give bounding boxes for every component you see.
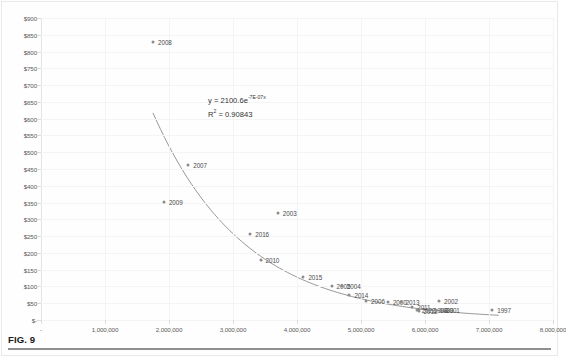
data-point[interactable] [330,284,333,287]
x-axis-tick-label: 7,000,000 [476,326,503,333]
y-axis-tick-label: $800 [24,48,37,55]
data-point[interactable] [399,301,402,304]
x-axis-tick-label: 3,000,000 [220,326,247,333]
x-axis-tick-label: 8,000,000 [540,326,566,333]
y-axis-tick-label: $150 [24,266,37,273]
data-point[interactable] [433,308,436,311]
y-axis-tick-mark [37,186,41,187]
y-axis-tick-mark [37,152,41,153]
y-axis-tick-mark [37,236,41,237]
figure-caption: FIG. 9 [8,334,35,345]
data-point[interactable] [348,293,351,296]
plot-area: 2008200720092003201620102015200520042014… [41,18,553,320]
y-axis-tick-mark [37,35,41,36]
r-squared-value: = 0.90843 [216,109,252,118]
y-axis-tick-label: $250 [24,233,37,240]
data-point-label: 2002 [444,297,458,304]
x-axis-tick-mark [41,320,42,324]
data-point-label: 2008 [158,39,172,46]
data-point-label: 2014 [354,291,368,298]
x-axis-tick-mark [233,320,234,324]
r-squared-line: R2 = 0.90843 [208,106,266,120]
x-axis-tick-label: - [40,326,42,333]
data-point-label: 2010 [266,257,280,264]
y-axis-tick-mark [37,135,41,136]
y-axis-tick-mark [37,85,41,86]
data-point[interactable] [491,308,494,311]
equation-base: y = 2100.6e [208,96,248,105]
y-axis-tick-mark [37,270,41,271]
data-point-label: 2015 [308,274,322,281]
y-axis-tick-label: $600 [24,115,37,122]
data-point[interactable] [187,163,190,166]
y-axis-tick-label: $400 [24,182,37,189]
y-axis-tick-mark [37,102,41,103]
y-axis-tick-label: $500 [24,149,37,156]
data-point[interactable] [340,285,343,288]
gridline-vertical [361,18,362,320]
x-axis-tick-mark [361,320,362,324]
data-point-label: 2006 [371,297,385,304]
y-axis-tick-label: $900 [24,15,37,22]
gridline-vertical [425,18,426,320]
data-point[interactable] [417,310,420,313]
data-point-label: 2001 [446,306,460,313]
data-point[interactable] [440,308,443,311]
x-axis-tick-label: 2,000,000 [156,326,183,333]
y-axis-tick-label: $850 [24,31,37,38]
gridline-vertical [489,18,490,320]
data-point[interactable] [302,276,305,279]
data-point[interactable] [411,306,414,309]
equation-exponent: -7E-07x [248,94,266,100]
y-axis-tick-mark [37,119,41,120]
data-point[interactable] [276,211,279,214]
y-axis-tick-label: $750 [24,65,37,72]
data-point-label: 1997 [497,306,511,313]
data-point-label: 2004 [347,283,361,290]
data-point-label: 2016 [255,231,269,238]
y-axis-tick-label: $650 [24,98,37,105]
y-axis-tick-label: $300 [24,216,37,223]
y-axis-tick-mark [37,169,41,170]
data-point[interactable] [365,299,368,302]
y-axis-tick-mark [37,52,41,53]
y-axis-tick-label: $450 [24,166,37,173]
y-axis-tick-mark [37,18,41,19]
data-point[interactable] [386,300,389,303]
scatter-chart: $900$850$800$750$700$650$600$550$500$450… [0,0,559,330]
data-point[interactable] [152,41,155,44]
x-axis-tick-mark [425,320,426,324]
y-axis-tick-mark [37,68,41,69]
x-axis-tick-label: 1,000,000 [92,326,119,333]
y-axis-tick-mark [37,303,41,304]
gridline-vertical [169,18,170,320]
equation-line: y = 2100.6e-7E-07x [208,92,266,106]
y-axis-tick-label: $100 [24,283,37,290]
x-axis-tick-mark [489,320,490,324]
y-axis-tick-label: $700 [24,82,37,89]
gridline-vertical [233,18,234,320]
data-point[interactable] [427,308,430,311]
data-point-label: 2009 [169,198,183,205]
x-axis-tick-mark [553,320,554,324]
y-axis-tick-mark [37,219,41,220]
data-point[interactable] [162,200,165,203]
data-point-label: 2007 [193,161,207,168]
data-point[interactable] [438,299,441,302]
x-axis-tick-label: 4,000,000 [284,326,311,333]
y-axis-tick-mark [37,253,41,254]
data-point[interactable] [249,233,252,236]
y-axis-tick-mark [37,203,41,204]
y-axis-tick-mark [37,286,41,287]
x-axis-tick-label: 5,000,000 [348,326,375,333]
gridline-vertical [297,18,298,320]
x-axis-tick-label: 6,000,000 [412,326,439,333]
y-axis-labels: $900$850$800$750$700$650$600$550$500$450… [0,0,37,330]
data-point[interactable] [259,259,262,262]
trendline-equation-annotation: y = 2100.6e-7E-07x R2 = 0.90843 [208,92,266,119]
y-axis-tick-label: $550 [24,132,37,139]
gridline-vertical [553,18,554,320]
x-axis-tick-mark [297,320,298,324]
x-axis-tick-mark [105,320,106,324]
